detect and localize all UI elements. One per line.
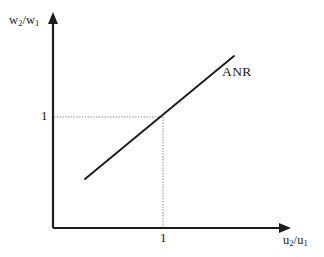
y-axis-label: w2/w1 [9,14,39,27]
y-axis-arrow-icon [48,12,58,24]
y-axis-denominator: w [26,13,35,27]
y-axis-denominator-subscript: 1 [35,18,39,28]
x-axis-label: u2/u1 [283,234,308,247]
anr-diagram-figure: w2/w1 u2/u1 1 1 ANR [0,0,324,257]
y-axis-numerator: w [9,13,18,27]
y-axis-tick-label-1: 1 [41,109,48,122]
x-axis-tick-label-1: 1 [160,231,167,244]
x-axis-denominator-subscript: 1 [304,238,308,248]
x-axis-arrow-icon [279,223,291,233]
anr-curve-label: ANR [222,65,252,79]
diagram-canvas [0,0,324,257]
